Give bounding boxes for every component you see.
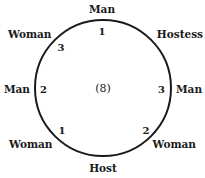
seating-diagram: (8) Man 1 Hostess 3 Man 2 Woman Host 1 W…	[0, 0, 205, 178]
seat-number-bottom-right: 2	[143, 125, 150, 136]
center-label: (8)	[95, 82, 111, 95]
seat-label-bottom-right: Woman	[152, 138, 197, 150]
seat-label-top-left: Woman	[7, 28, 52, 40]
seat-label-top-right: Hostess	[157, 28, 203, 40]
seat-label-right: Man	[176, 83, 202, 95]
seat-label-top: Man	[89, 3, 115, 15]
seat-number-bottom-left: 1	[59, 125, 66, 136]
seat-number-left: 2	[40, 84, 47, 95]
seat-label-bottom-left: Woman	[8, 138, 53, 150]
seat-number-top-left: 3	[58, 42, 65, 53]
seat-number-top: 1	[99, 26, 106, 37]
seat-label-left: Man	[4, 83, 30, 95]
seat-number-right: 3	[158, 84, 165, 95]
seat-label-bottom: Host	[89, 162, 117, 174]
